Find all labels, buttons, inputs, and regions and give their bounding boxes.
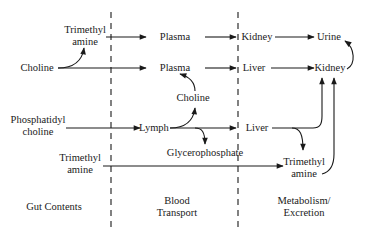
node-label-line2: amine (59, 164, 101, 176)
node-label-line2: amine (283, 168, 325, 180)
node-choline-gut: Choline (20, 62, 53, 74)
node-label-line2: amine (64, 36, 106, 48)
node-trimethylamine-gut-top: Trimethyl amine (64, 24, 106, 48)
node-trimethylamine-metab: Trimethyl amine (283, 156, 325, 180)
node-trimethylamine-gut-bottom: Trimethyl amine (59, 152, 101, 176)
node-kidney-2: Kidney (315, 62, 346, 74)
zone-label-line1: Metabolism/ (277, 195, 330, 207)
node-choline-blood: Choline (176, 92, 209, 104)
node-label-line1: Trimethyl (59, 152, 101, 164)
diagram-canvas: Trimethyl amine Plasma Kidney Urine Chol… (0, 0, 373, 247)
zone-label-gut-contents: Gut Contents (26, 201, 82, 213)
zone-label-line2: Excretion (277, 207, 330, 219)
node-label-line2: choline (11, 126, 66, 138)
node-urine: Urine (317, 31, 341, 43)
zone-label-metabolism-excretion: Metabolism/ Excretion (277, 195, 330, 219)
zone-label-line1: Blood (157, 195, 197, 207)
node-phosphatidylcholine: Phosphatidyl choline (11, 114, 66, 138)
node-lymph: Lymph (139, 122, 169, 134)
node-label-line1: Trimethyl (64, 24, 106, 36)
zone-label-blood-transport: Blood Transport (157, 195, 197, 219)
node-kidney-1: Kidney (242, 31, 273, 43)
node-plasma-2: Plasma (160, 62, 190, 74)
node-liver-1: Liver (243, 62, 266, 74)
zone-label-line2: Transport (157, 207, 197, 219)
node-glycerophosphate: Glycerophosphate (167, 147, 243, 159)
node-label-line1: Trimethyl (283, 156, 325, 168)
node-label-line1: Phosphatidyl (11, 114, 66, 126)
node-liver-2: Liver (246, 122, 269, 134)
node-plasma-1: Plasma (160, 31, 190, 43)
